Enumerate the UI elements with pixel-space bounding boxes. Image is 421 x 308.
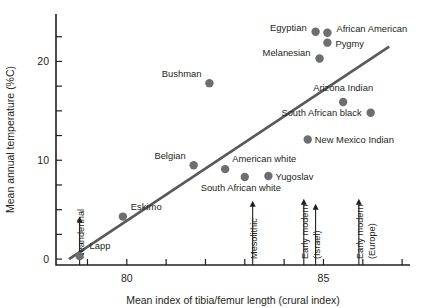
y-axis-title: Mean annual temperature (%C) [4,66,16,213]
data-point [315,54,323,62]
data-point-label: South African white [201,182,281,193]
data-point [264,172,272,180]
data-point [189,161,197,169]
y-tick-label: 0 [43,253,49,265]
data-point [119,212,127,220]
data-point [339,98,347,106]
data-point-label: Melanesian [263,47,311,58]
data-point-label: New Mexico Indian [315,134,394,145]
data-point-label: American white [232,153,296,164]
data-point [323,38,331,46]
reference-mark-label: Early modern [355,204,365,259]
data-point-label: Bushman [162,68,202,79]
data-point-label: South African black [281,107,362,118]
data-point [75,252,83,260]
data-point [221,165,229,173]
data-point-label: Lapp [90,240,111,251]
data-point-label: Egyptian [270,22,306,33]
data-point [311,28,319,36]
crural-index-scatter-chart: 808501020 NeanderthalMesolithicEarly mod… [0,0,421,308]
y-tick-label: 20 [37,55,49,67]
reference-mark-label: (Europe) [367,223,377,259]
reference-mark-label: Neanderthal [76,209,86,259]
data-point-label: African American [336,23,407,34]
data-point-label: Arizona Indian [313,82,373,93]
y-tick-label: 10 [37,154,49,166]
data-point-label: Eskimo [131,201,162,212]
data-point [241,173,249,181]
data-point-label: Belgian [154,150,185,161]
data-point [304,135,312,143]
data-point [205,79,213,87]
data-point [366,109,374,117]
x-tick-label: 80 [121,272,133,284]
data-point-label: Pygmy [335,38,364,49]
x-tick-label: 85 [318,272,330,284]
data-point-label: Yugoslav [275,171,313,182]
data-point [323,29,331,37]
reference-mark-label: (Israel) [312,230,322,259]
x-axis-title: Mean index of tibia/femur length (crural… [126,294,340,306]
reference-mark-label: Early modern [300,204,310,259]
reference-mark-label: Mesolithic [249,218,259,259]
